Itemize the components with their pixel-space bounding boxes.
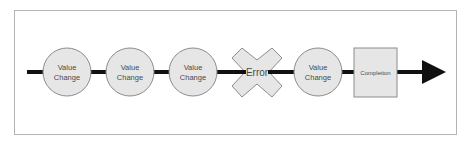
node-label: Error (246, 67, 269, 78)
node-label-line1: Value (121, 63, 140, 72)
arrow-head-icon (422, 60, 446, 84)
node-label-line2: Change (180, 73, 206, 82)
node-value-change-1: Value Change (43, 48, 91, 96)
node-label-line1: Value (309, 63, 328, 72)
node-label-line1: Value (184, 63, 203, 72)
node-label: Completion (360, 70, 390, 76)
node-error: Error (232, 48, 283, 97)
node-value-change-4: Value Change (294, 48, 342, 96)
node-value-change-3: Value Change (169, 48, 217, 96)
node-value-change-2: Value Change (106, 48, 154, 96)
node-label-line2: Change (117, 73, 143, 82)
node-label-line2: Change (54, 73, 80, 82)
node-label-line1: Value (58, 63, 77, 72)
node-completion: Completion (354, 48, 397, 97)
process-flow-diagram: Value Change Value Change Value Change E… (0, 0, 472, 141)
node-label-line2: Change (305, 73, 331, 82)
